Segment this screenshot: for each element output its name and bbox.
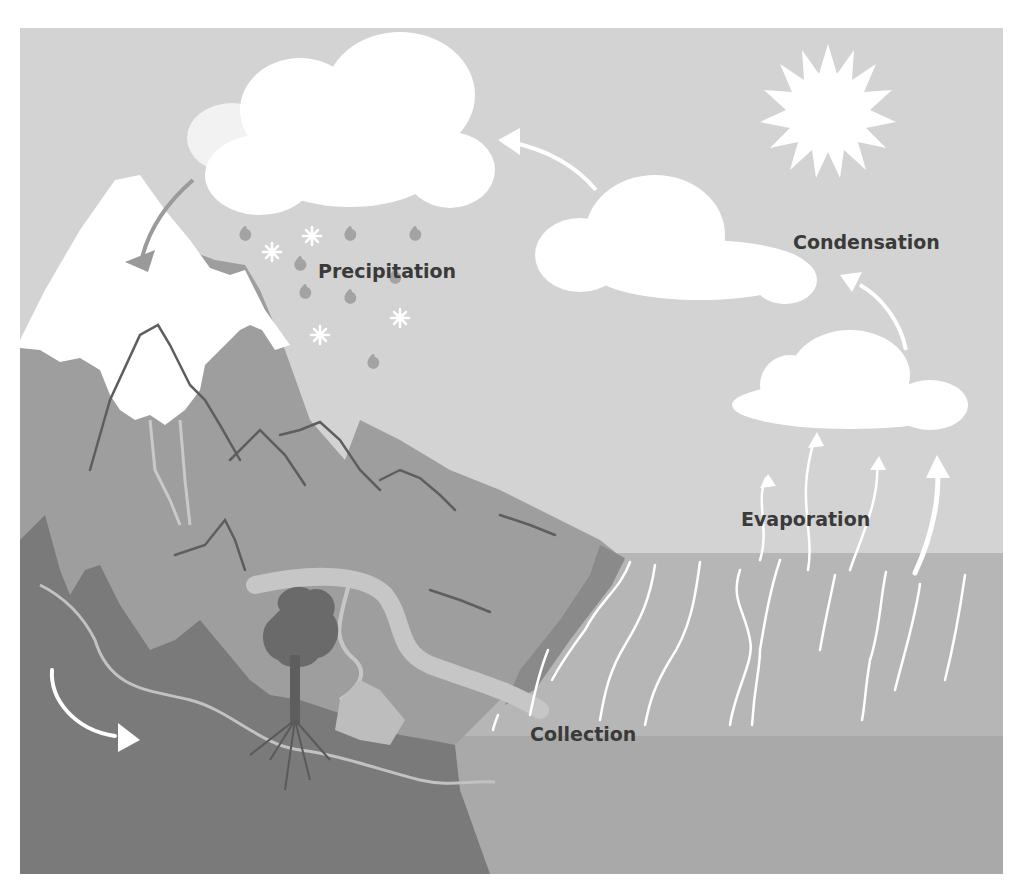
- label-collection: Collection: [530, 723, 636, 745]
- ocean-deep: [440, 736, 1010, 876]
- label-precipitation: Precipitation: [318, 260, 456, 282]
- label-evaporation: Evaporation: [741, 508, 870, 530]
- water-cycle-diagram: Precipitation Condensation Evaporation C…: [0, 0, 1022, 891]
- label-condensation: Condensation: [793, 231, 940, 253]
